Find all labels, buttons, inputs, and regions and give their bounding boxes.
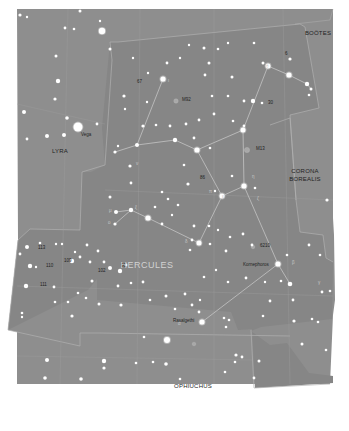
star-icon	[193, 225, 196, 228]
star-icon	[154, 206, 157, 209]
constellation-label: HERCULES	[120, 260, 173, 270]
star-icon	[74, 123, 83, 132]
star-icon	[114, 416, 117, 419]
star-icon	[262, 315, 265, 318]
star-icon	[227, 42, 229, 44]
star-icon	[97, 250, 100, 253]
star-icon	[54, 301, 57, 304]
star-icon	[79, 256, 82, 259]
star-icon	[102, 366, 105, 369]
star-icon	[161, 223, 164, 226]
star-icon	[184, 293, 187, 296]
star-icon	[28, 264, 32, 268]
star-icon	[198, 311, 201, 314]
catalog-label: 86	[200, 175, 206, 180]
star-icon	[179, 57, 181, 59]
star-icon	[77, 292, 80, 295]
greek-letter-label: β	[292, 260, 295, 265]
star-icon	[79, 377, 83, 381]
catalog-label: 102	[98, 268, 106, 273]
star-icon	[174, 308, 177, 311]
star-icon	[242, 233, 245, 236]
greek-letter-label: ε	[222, 194, 224, 199]
star-icon	[86, 244, 89, 247]
star-icon	[325, 349, 328, 352]
star-icon	[152, 361, 155, 364]
star-icon	[199, 299, 201, 301]
catalog-label: M13	[256, 146, 265, 151]
star-icon	[227, 95, 230, 98]
star-icon	[209, 243, 212, 246]
star-icon	[231, 76, 234, 79]
star-icon	[53, 286, 56, 289]
star-icon	[204, 74, 207, 77]
star-icon	[231, 175, 234, 178]
deep-sky-object-icon	[174, 99, 178, 103]
star-icon	[91, 280, 94, 283]
star-icon	[164, 337, 170, 343]
star-icon	[199, 319, 204, 324]
star-icon	[96, 123, 99, 126]
star-icon	[94, 411, 97, 414]
star-icon	[135, 362, 138, 365]
star-icon	[173, 138, 177, 142]
star-icon	[98, 303, 101, 306]
star-icon	[203, 276, 206, 279]
star-icon	[217, 48, 220, 51]
star-icon	[292, 319, 295, 322]
star-icon	[55, 243, 57, 245]
star-icon	[183, 164, 186, 167]
star-icon	[73, 409, 76, 412]
star-icon	[197, 241, 202, 246]
constellation-label: CORONA	[291, 168, 319, 174]
star-icon	[70, 314, 73, 317]
star-icon	[74, 251, 76, 253]
star-icon	[161, 191, 164, 194]
constellation-label: LYRA	[52, 148, 68, 154]
catalog-label: 109	[64, 258, 72, 263]
constellation-label: OPHIUCHUS	[174, 383, 212, 389]
star-name-label: Vega	[81, 132, 92, 137]
star-icon	[130, 182, 133, 185]
star-icon	[142, 281, 145, 284]
star-icon	[89, 261, 92, 264]
star-icon	[234, 361, 237, 364]
star-icon	[191, 239, 194, 242]
star-icon	[145, 215, 150, 220]
star-icon	[128, 164, 131, 167]
star-icon	[241, 183, 246, 188]
star-icon	[26, 138, 29, 141]
star-icon	[132, 57, 134, 59]
star-icon	[43, 376, 47, 380]
catalog-label: 67	[137, 79, 143, 84]
star-icon	[108, 266, 112, 270]
star-icon	[292, 299, 295, 302]
star-icon	[245, 277, 248, 280]
star-icon	[117, 145, 119, 147]
star-icon	[254, 187, 257, 190]
star-icon	[149, 299, 152, 302]
star-icon	[55, 55, 58, 58]
star-icon	[65, 116, 69, 120]
star-icon	[310, 88, 313, 91]
star-icon	[321, 291, 324, 294]
star-icon	[45, 134, 49, 138]
star-icon	[194, 147, 199, 152]
star-icon	[186, 182, 189, 185]
star-icon	[215, 269, 217, 271]
star-icon	[124, 108, 126, 110]
star-icon	[167, 198, 170, 201]
star-icon	[208, 225, 211, 228]
star-icon	[261, 102, 264, 105]
star-icon	[251, 99, 255, 103]
star-icon	[260, 395, 263, 398]
star-icon	[180, 404, 184, 408]
star-icon	[264, 281, 266, 283]
star-icon	[253, 377, 256, 380]
catalog-label: 6210	[260, 243, 271, 248]
star-icon	[122, 94, 125, 97]
star-icon	[79, 10, 82, 13]
star-icon	[35, 266, 37, 268]
star-icon	[286, 72, 291, 77]
star-icon	[325, 198, 328, 201]
